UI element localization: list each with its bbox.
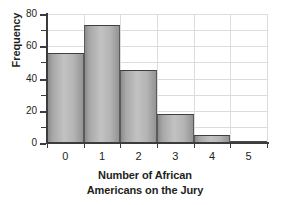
- x-axis-title-line-2: Americans on the Jury: [30, 183, 260, 198]
- bar-2: [120, 70, 157, 143]
- y-tick-major: [40, 111, 46, 113]
- y-tick-minor: [41, 62, 46, 63]
- gridline-vertical: [267, 14, 268, 143]
- histogram-chart: Frequency Number of African Americans on…: [0, 0, 281, 205]
- gridline-vertical: [230, 14, 231, 143]
- gridline-vertical: [194, 14, 195, 143]
- x-tick: [157, 144, 158, 148]
- x-tick: [267, 144, 268, 148]
- y-tick-minor: [41, 95, 46, 96]
- y-tick-label: 20: [0, 106, 37, 116]
- y-tick-major: [40, 143, 46, 145]
- x-axis-title-line-1: Number of African: [30, 168, 260, 183]
- y-tick-minor: [41, 30, 46, 31]
- x-tick-label-3: 3: [163, 150, 187, 162]
- x-tick: [194, 144, 195, 148]
- x-tick-label-4: 4: [200, 150, 224, 162]
- y-tick-major: [40, 79, 46, 81]
- x-tick-label-0: 0: [53, 150, 77, 162]
- y-tick-label: 80: [0, 9, 37, 19]
- y-tick-label: 60: [0, 41, 37, 51]
- y-axis-line: [46, 13, 48, 144]
- x-tick: [120, 144, 121, 148]
- bar-0: [47, 53, 84, 143]
- y-tick-major: [40, 46, 46, 48]
- y-tick-label: 0: [0, 138, 37, 148]
- x-tick: [230, 144, 231, 148]
- y-tick-major: [40, 14, 46, 16]
- plot-area: [47, 14, 267, 143]
- x-axis-title: Number of African Americans on the Jury: [30, 168, 260, 197]
- bar-1: [84, 25, 120, 143]
- x-tick-label-1: 1: [90, 150, 114, 162]
- y-tick-label: 40: [0, 74, 37, 84]
- x-tick-label-2: 2: [127, 150, 151, 162]
- x-tick: [84, 144, 85, 148]
- x-tick-label-5: 5: [237, 150, 261, 162]
- bar-3: [157, 114, 194, 143]
- y-tick-minor: [41, 127, 46, 128]
- x-tick: [47, 144, 48, 148]
